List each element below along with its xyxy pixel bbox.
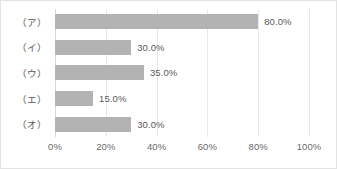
category-label: （オ） [17, 111, 47, 137]
axis-tick-label: 100% [297, 141, 322, 152]
bar-value-label: 35.0% [150, 67, 177, 78]
axis-tick-label: 40% [147, 141, 166, 152]
value-axis: 0% 20% 40% 60% 80% 100% [55, 141, 309, 157]
bar-value-label: 30.0% [137, 119, 164, 130]
bar [55, 117, 131, 132]
bar-chart: （ア） （イ） （ウ） （エ） （オ） 80.0% 30.0% [0, 0, 337, 169]
bar-row: 30.0% [55, 111, 309, 137]
bar-row: 35.0% [55, 60, 309, 86]
bar [55, 40, 131, 55]
bar-value-label: 30.0% [137, 42, 164, 53]
bar [55, 14, 258, 29]
category-axis: （ア） （イ） （ウ） （エ） （オ） [1, 9, 51, 137]
category-label: （ア） [17, 9, 47, 35]
category-label: （イ） [17, 35, 47, 61]
plot-area: 80.0% 30.0% 35.0% 15.0% 30.0% [55, 9, 309, 137]
bar-row: 30.0% [55, 35, 309, 61]
bar-row: 15.0% [55, 86, 309, 112]
category-label: （エ） [17, 86, 47, 112]
bar-series: 80.0% 30.0% 35.0% 15.0% 30.0% [55, 9, 309, 137]
category-label: （ウ） [17, 60, 47, 86]
bar-value-label: 15.0% [99, 93, 126, 104]
gridline [309, 9, 310, 137]
bar-row: 80.0% [55, 9, 309, 35]
bar-value-label: 80.0% [264, 16, 291, 27]
axis-tick-label: 20% [96, 141, 115, 152]
axis-tick-label: 0% [48, 141, 62, 152]
bar [55, 91, 93, 106]
axis-tick-label: 80% [249, 141, 268, 152]
bar [55, 65, 144, 80]
axis-tick-label: 60% [198, 141, 217, 152]
